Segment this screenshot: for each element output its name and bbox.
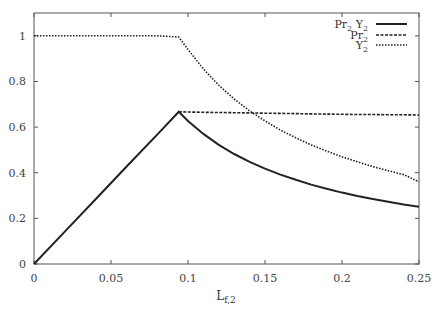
- x-tick-label: 0.2: [333, 272, 351, 285]
- line-chart: 00.050.10.150.20.2500.20.40.60.81 Pr2 Y2…: [0, 0, 437, 317]
- series-line-pr2-y2: [34, 112, 419, 264]
- x-tick-label: 0: [31, 272, 38, 285]
- series-lines: [34, 36, 419, 264]
- series-line-pr2: [179, 112, 419, 115]
- y-tick-label: 0.8: [9, 75, 27, 88]
- x-axis-title: Lf,2: [216, 289, 236, 305]
- y-tick-label: 0: [19, 258, 26, 271]
- x-tick-label: 0.25: [407, 272, 432, 285]
- legend: Pr2 Y2Pr2Y2: [334, 18, 407, 54]
- x-tick-label: 0.05: [99, 272, 124, 285]
- x-tick-label: 0.1: [179, 272, 197, 285]
- series-line-y2: [34, 36, 419, 182]
- y-tick-label: 0.6: [9, 121, 27, 134]
- y-tick-label: 0.2: [9, 212, 27, 225]
- x-tick-label: 0.15: [253, 272, 278, 285]
- y-tick-label: 0.4: [9, 167, 27, 180]
- y-tick-label: 1: [19, 30, 26, 43]
